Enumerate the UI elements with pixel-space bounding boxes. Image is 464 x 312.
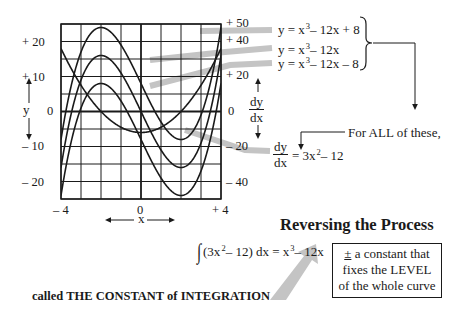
y-axis-label: y — [23, 103, 30, 116]
section-title: Reversing the Process — [280, 217, 434, 234]
y-tick-0: 0 — [47, 105, 53, 118]
axis-arrows — [26, 17, 418, 223]
legend-curve-plus-8: y = x3– 12x + 8 — [278, 23, 360, 36]
integral-sign: ∫ — [197, 241, 201, 263]
y-tick-minus-20: – 20 — [22, 176, 44, 189]
dydx-tick-minus-40: – 40 — [226, 176, 248, 189]
dydx-tick-0: 0 — [228, 105, 234, 118]
y-tick-20: + 20 — [22, 36, 45, 49]
dydx-tick-50: + 50 — [226, 17, 249, 30]
figure: + 20 + 10 0 – 10 – 20 y + 50 + 40 + 20 0… — [0, 0, 464, 312]
derivative-equation: = 3x2– 12 — [292, 149, 344, 162]
legend-curve-minus-8: y = x3– 12x – 8 — [278, 57, 359, 70]
dydx-tick-minus-20: – 20 — [226, 140, 248, 153]
dydx-axis-label: dy dx — [249, 95, 264, 124]
derivative-fraction: dy dx — [273, 140, 288, 169]
constant-note-box: ± a constant that fixes the LEVEL of the… — [332, 243, 442, 298]
y-tick-10: + 10 — [22, 71, 45, 84]
constant-caption: called THE CONSTANT of INTEGRATION — [32, 290, 270, 303]
y-tick-minus-10: – 10 — [22, 140, 44, 153]
x-tick-minus-4: – 4 — [53, 204, 69, 217]
x-axis-label: x — [138, 212, 145, 225]
for-all-label: For ALL of these, — [348, 126, 441, 139]
integral-equation: ∫(3x2– 12) dx = x3– 12x — [196, 238, 324, 260]
dydx-tick-40: + 40 — [226, 34, 249, 47]
dydx-tick-20: + 20 — [226, 69, 249, 82]
x-tick-4: + 4 — [212, 204, 228, 217]
